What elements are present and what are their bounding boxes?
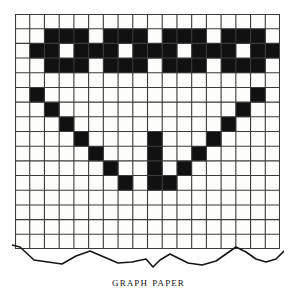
grid-cell-filled (74, 29, 89, 44)
grid-cell-filled (162, 43, 177, 58)
grid-cell-filled (192, 29, 207, 44)
grid-cell-filled (74, 132, 89, 147)
grid-cell-filled (177, 29, 192, 44)
grid-cell-filled (89, 146, 104, 161)
grid-cell-filled (206, 132, 221, 147)
grid-cell-filled (133, 58, 148, 73)
grid-cell-filled (118, 176, 133, 191)
torn-edge-path (12, 245, 284, 267)
grid-cell-filled (251, 29, 266, 44)
graph-paper-figure: Graph paper (0, 0, 297, 299)
grid-cell-filled (221, 29, 236, 44)
grid-cell-filled (59, 29, 74, 44)
grid-cell-filled (148, 161, 163, 176)
grid-cell-filled (236, 102, 251, 117)
grid-cell-filled (133, 43, 148, 58)
grid-cell-filled (118, 29, 133, 44)
grid-cell-filled (192, 146, 207, 161)
grid-cell-filled (148, 176, 163, 191)
grid-cell-filled (74, 58, 89, 73)
grid-cell-filled (44, 102, 59, 117)
grid-cell-filled (59, 58, 74, 73)
grid-cell-filled (251, 87, 266, 102)
grid-canvas (15, 14, 280, 249)
torn-edge (12, 243, 284, 271)
grid-cell-filled (30, 43, 45, 58)
grid-cell-filled (162, 176, 177, 191)
grid-cell-filled (236, 58, 251, 73)
grid-cell-filled (192, 58, 207, 73)
grid-cell-filled (44, 29, 59, 44)
grid-cell-filled (148, 132, 163, 147)
grid-cell-filled (162, 29, 177, 44)
torn-edge-canvas (12, 243, 284, 271)
figure-caption: Graph paper (0, 275, 297, 290)
grid-cell-filled (192, 43, 207, 58)
grid-cell-filled (236, 29, 251, 44)
grid-cell-filled (206, 43, 221, 58)
grid-cell-filled (251, 58, 266, 73)
grid-cell-filled (148, 43, 163, 58)
grid-cell-filled (177, 58, 192, 73)
grid-cell-filled (89, 43, 104, 58)
grid-cell-filled (44, 43, 59, 58)
grid-cell-filled (162, 58, 177, 73)
grid-cell-filled (148, 146, 163, 161)
grid-cell-filled (118, 58, 133, 73)
grid-cell-filled (265, 43, 280, 58)
grid-cell-filled (103, 58, 118, 73)
grid-cell-filled (177, 161, 192, 176)
grid-cell-filled (103, 29, 118, 44)
grid-cell-filled (103, 161, 118, 176)
grid-cell-filled (74, 43, 89, 58)
grid-cell-filled (133, 29, 148, 44)
grid-cell-filled (221, 43, 236, 58)
grid-cell-filled (221, 58, 236, 73)
grid-cell-filled (59, 117, 74, 132)
grid-cell-filled (30, 87, 45, 102)
grid-cell-filled (251, 43, 266, 58)
grid-cell-filled (44, 58, 59, 73)
graph-paper-grid (15, 14, 280, 249)
grid-cell-filled (103, 43, 118, 58)
grid-cell-filled (221, 117, 236, 132)
